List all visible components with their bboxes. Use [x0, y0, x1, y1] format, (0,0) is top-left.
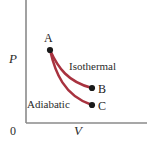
point-c-marker [89, 102, 95, 108]
point-b-marker [89, 85, 95, 91]
y-axis-label: P [9, 52, 17, 65]
origin-label: 0 [10, 125, 16, 137]
point-a-label: A [44, 32, 53, 44]
x-axis-label: V [74, 124, 82, 137]
curves-group [50, 50, 92, 105]
point-c-label: C [98, 100, 106, 112]
isothermal-curve-label: Isothermal [69, 61, 116, 72]
adiabatic-curve-label: Adiabatic [27, 99, 70, 110]
pv-diagram-figure: P V 0 A B C Isothermal Adiabatic [0, 0, 155, 142]
point-b-label: B [98, 83, 106, 95]
point-a-marker [47, 47, 53, 53]
